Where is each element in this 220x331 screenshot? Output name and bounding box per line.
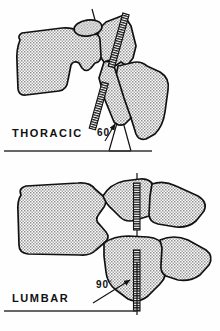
lumbar-angle-label: 90° (96, 279, 113, 290)
lumbar-caption: LUMBAR (12, 292, 69, 304)
anatomy-diagram: 60° THORACIC 90° LUMBAR (0, 0, 220, 331)
thoracic-upper-vertebral-body (17, 28, 101, 95)
panel-lumbar: 90° LUMBAR (4, 173, 211, 315)
thoracic-caption: THORACIC (12, 127, 83, 139)
thoracic-facet-bar-inferior (89, 82, 108, 130)
lumbar-upper-vertebral-body (18, 183, 108, 255)
lumbar-facet-bar-superior (134, 183, 141, 230)
panel-thoracic: 60° THORACIC (4, 9, 168, 151)
thoracic-angle-label: 60° (97, 127, 114, 138)
lumbar-superior-articular-process (103, 179, 156, 221)
lumbar-lower-spinous-process (160, 237, 211, 280)
diagram-canvas: 60° THORACIC 90° LUMBAR (0, 0, 220, 331)
lumbar-upper-spinous-process (149, 182, 205, 227)
